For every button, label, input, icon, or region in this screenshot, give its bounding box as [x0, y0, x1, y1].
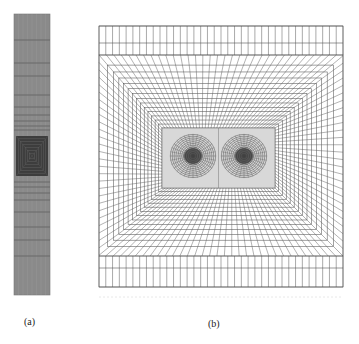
panel-a-label: (a): [24, 316, 35, 327]
mesh-figure: [0, 0, 359, 344]
panel-b-label: (b): [208, 318, 220, 329]
panel-a-column-mesh: [14, 14, 50, 295]
panel-b-square-mesh: [99, 26, 343, 297]
